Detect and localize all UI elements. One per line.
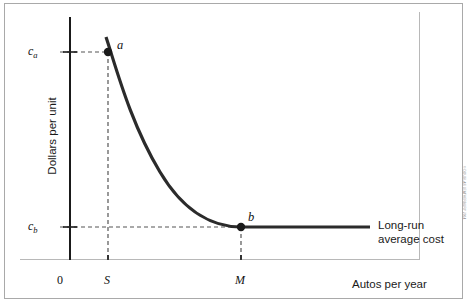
chart-canvas <box>20 12 420 260</box>
annotation-point-b: b <box>248 210 254 225</box>
y-tick-label-cb-sub: b <box>33 225 37 235</box>
x-tick-label-m: M <box>235 273 245 288</box>
plot-panel: Dollars per unit ca cb 0 S M a b Long-ru… <box>20 12 420 260</box>
x-tick-label-s: S <box>104 273 110 288</box>
long-run-average-cost-curve[interactable] <box>106 37 370 227</box>
data-point-a[interactable] <box>104 48 112 56</box>
data-point-b[interactable] <box>237 223 245 231</box>
curve-name-label-line2: average cost <box>378 232 444 246</box>
y-axis-title: Dollars per unit <box>46 66 58 206</box>
x-axis-title: Autos per year <box>352 278 427 290</box>
annotation-point-a: a <box>117 38 123 53</box>
y-tick-label-cb: cb <box>28 219 38 235</box>
x-tick-label-zero: 0 <box>57 273 63 288</box>
y-tick-label-ca: ca <box>28 44 38 60</box>
figure-container: Dollars per unit ca cb 0 S M a b Long-ru… <box>0 0 468 304</box>
curve-name-label-line1: Long-run <box>378 218 444 232</box>
y-tick-label-ca-sub: a <box>33 50 37 60</box>
figure-credit: © DOUGLAS LEATHERBURY 2014 <box>462 166 466 176</box>
curve-name-label: Long-run average cost <box>378 218 444 246</box>
